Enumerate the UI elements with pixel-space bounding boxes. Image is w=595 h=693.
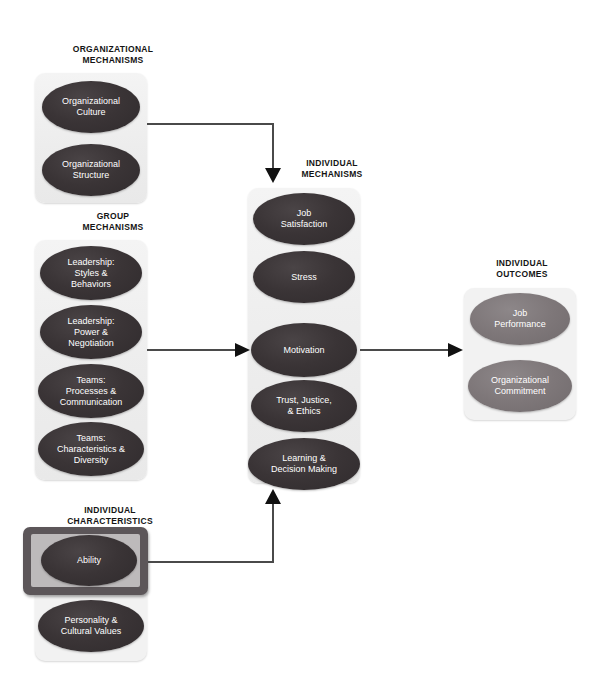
arrow-group-to-individual-mechanisms <box>235 343 250 357</box>
node-leadership-power-negotiation[interactable]: Leadership: Power & Negotiation <box>40 305 142 359</box>
connector-culture-vertical <box>272 123 274 171</box>
node-teams-processes-communication[interactable]: Teams: Processes & Communication <box>38 364 144 418</box>
node-organizational-structure[interactable]: Organizational Structure <box>42 144 140 196</box>
connector-group-horizontal <box>147 349 239 351</box>
node-ability[interactable]: Ability <box>41 535 137 586</box>
caption-group-mechanisms: GROUP MECHANISMS <box>48 211 178 233</box>
node-learning-decision-making[interactable]: Learning & Decision Making <box>248 438 360 490</box>
arrow-ability-to-individual-mechanisms <box>265 489 281 504</box>
caption-individual-outcomes: INDIVIDUAL OUTCOMES <box>462 258 582 280</box>
node-personality-cultural-values[interactable]: Personality & Cultural Values <box>38 600 144 652</box>
arrow-culture-to-individual-mechanisms <box>265 168 281 183</box>
node-leadership-styles-behaviors[interactable]: Leadership: Styles & Behaviors <box>40 246 142 300</box>
caption-individual-mechanisms: INDIVIDUAL MECHANISMS <box>272 158 392 180</box>
node-organizational-culture[interactable]: Organizational Culture <box>42 81 140 133</box>
caption-organizational-mechanisms: ORGANIZATIONAL MECHANISMS <box>48 44 178 66</box>
connector-outcomes-horizontal <box>360 349 452 351</box>
node-teams-characteristics-diversity[interactable]: Teams: Characteristics & Diversity <box>38 422 144 476</box>
node-stress[interactable]: Stress <box>253 251 355 303</box>
connector-ability-horizontal <box>148 561 274 563</box>
node-trust-justice-ethics[interactable]: Trust, Justice, & Ethics <box>251 380 357 432</box>
node-job-satisfaction[interactable]: Job Satisfaction <box>253 193 355 245</box>
node-organizational-commitment[interactable]: Organizational Commitment <box>468 360 572 412</box>
arrow-individual-mechanisms-to-outcomes <box>448 343 463 357</box>
node-motivation[interactable]: Motivation <box>251 323 357 377</box>
node-job-performance[interactable]: Job Performance <box>470 293 570 345</box>
connector-culture-horizontal <box>147 123 273 125</box>
caption-individual-characteristics: INDIVIDUAL CHARACTERISTICS <box>36 505 184 527</box>
diagram-canvas: ORGANIZATIONAL MECHANISMS Organizational… <box>0 0 595 693</box>
connector-ability-vertical <box>272 503 274 562</box>
